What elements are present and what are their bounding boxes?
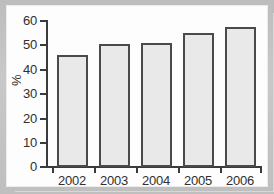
y-tick-label: 10 bbox=[0, 136, 37, 149]
bar-2006 bbox=[225, 27, 256, 167]
y-tick-mark bbox=[40, 166, 46, 168]
x-tick-label-2006: 2006 bbox=[217, 173, 263, 188]
y-tick-mark bbox=[40, 20, 46, 22]
y-tick-mark bbox=[40, 93, 46, 95]
plot-area: % 60 50 40 30 20 10 0 2002 2 bbox=[0, 0, 274, 194]
y-tick-label: 60 bbox=[0, 14, 37, 27]
x-tick-mark bbox=[136, 166, 138, 173]
bar-2002 bbox=[57, 55, 88, 167]
x-tick-mark bbox=[94, 166, 96, 173]
y-tick-label: 40 bbox=[0, 63, 37, 76]
y-axis-line bbox=[46, 20, 48, 168]
x-tick-label-2003: 2003 bbox=[91, 173, 137, 188]
x-tick-label-2005: 2005 bbox=[175, 173, 221, 188]
x-tick-label-2004: 2004 bbox=[133, 173, 179, 188]
y-tick-mark bbox=[40, 69, 46, 71]
y-tick-mark bbox=[40, 44, 46, 46]
y-tick-label: 30 bbox=[0, 87, 37, 100]
y-tick-mark bbox=[40, 118, 46, 120]
x-tick-mark bbox=[220, 166, 222, 173]
y-tick-label: 20 bbox=[0, 112, 37, 125]
y-axis-title: % bbox=[10, 74, 23, 86]
x-tick-mark bbox=[178, 166, 180, 173]
bar-2004 bbox=[141, 43, 172, 167]
y-tick-label: 50 bbox=[0, 38, 37, 51]
bar-2005 bbox=[183, 33, 214, 167]
bar-2003 bbox=[99, 44, 130, 167]
x-tick-mark bbox=[52, 166, 54, 173]
y-tick-label: 0 bbox=[0, 160, 37, 173]
bar-chart-figure: % 60 50 40 30 20 10 0 2002 2 bbox=[0, 0, 274, 194]
x-tick-label-2002: 2002 bbox=[49, 173, 95, 188]
y-tick-mark bbox=[40, 142, 46, 144]
x-tick-mark bbox=[260, 166, 262, 173]
